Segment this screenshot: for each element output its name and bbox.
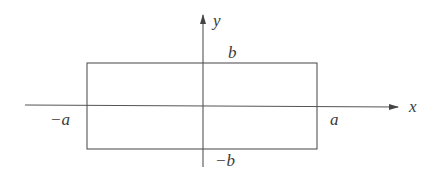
y-axis-label: y [211, 11, 221, 30]
coordinate-diagram: y x b −b −a a [0, 0, 442, 177]
x-axis [25, 105, 398, 107]
label-neg-a: −a [50, 110, 70, 129]
x-axis-label: x [408, 97, 417, 116]
label-b: b [228, 43, 237, 62]
label-a: a [330, 110, 339, 129]
label-neg-b: −b [215, 151, 235, 170]
